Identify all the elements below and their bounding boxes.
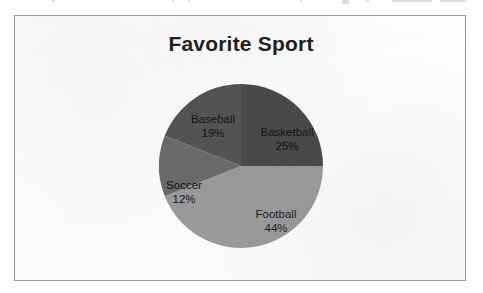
pie-chart: Basketball 25% Football 44% Soccer 12% B… [159, 84, 323, 249]
scan-artifact-strip [0, 0, 483, 13]
chart-title: Favorite Sport [15, 32, 467, 56]
pie-svg [159, 84, 323, 249]
pie-slice-basketball[interactable] [241, 84, 323, 166]
chart-frame: Favorite Sport Basketball 25% Football 4… [14, 15, 466, 281]
